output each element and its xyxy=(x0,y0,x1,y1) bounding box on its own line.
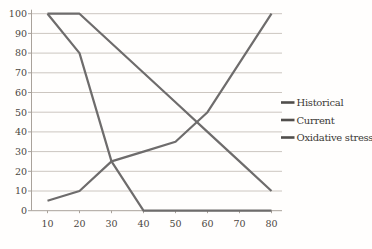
x-tick-label: 30 xyxy=(105,218,117,229)
y-tick-label: 90 xyxy=(15,28,27,39)
y-tick-label: 80 xyxy=(15,47,27,58)
y-tick-label: 50 xyxy=(15,107,27,118)
x-tick-label: 10 xyxy=(41,218,53,229)
legend-label: Historical xyxy=(297,97,344,108)
x-tick-label: 20 xyxy=(73,218,85,229)
y-tick-label: 60 xyxy=(15,87,27,98)
x-axis-tick-labels: 1020304050607080 xyxy=(41,218,277,229)
y-tick-label: 30 xyxy=(15,146,27,157)
legend: HistoricalCurrentOxidative stress xyxy=(281,97,372,143)
gridlines xyxy=(28,14,282,211)
x-tick-label: 50 xyxy=(169,218,181,229)
y-tick-label: 100 xyxy=(9,8,27,19)
legend-item-oxidative-stress: Oxidative stress xyxy=(281,132,372,143)
legend-item-current: Current xyxy=(281,115,335,126)
line-chart-figure: 01020304050607080901001020304050607080Hi… xyxy=(0,0,372,249)
x-tick-label: 70 xyxy=(233,218,245,229)
series-line-oxidative-stress xyxy=(48,14,272,201)
series-line-historical xyxy=(48,14,272,191)
x-tick-label: 60 xyxy=(201,218,213,229)
x-tick-label: 80 xyxy=(265,218,277,229)
chart-canvas: 01020304050607080901001020304050607080Hi… xyxy=(0,0,372,249)
y-tick-label: 40 xyxy=(15,126,27,137)
x-tick-label: 40 xyxy=(137,218,149,229)
y-tick-label: 0 xyxy=(21,205,27,216)
y-axis-tick-labels: 0102030405060708090100 xyxy=(9,8,27,216)
y-tick-label: 70 xyxy=(15,67,27,78)
legend-label: Current xyxy=(297,115,335,126)
legend-item-historical: Historical xyxy=(281,97,343,108)
legend-label: Oxidative stress xyxy=(297,132,372,143)
y-tick-label: 10 xyxy=(15,185,27,196)
y-tick-label: 20 xyxy=(15,166,27,177)
